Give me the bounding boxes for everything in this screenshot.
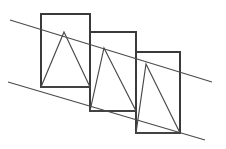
geometric-line-diagram [0, 0, 226, 149]
figure-container [0, 0, 226, 149]
figure-background [0, 0, 226, 149]
